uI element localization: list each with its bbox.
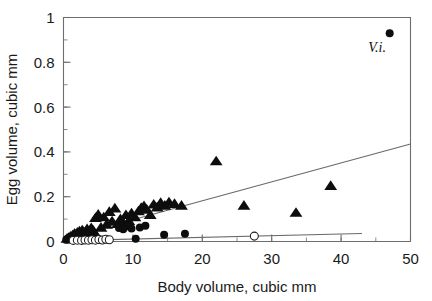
y-tick-label: 0.6 — [34, 99, 55, 116]
scatter-plot-figure: 0102030405000.20.40.60.81 Body volume, c… — [0, 0, 432, 301]
data-point-circle — [128, 225, 136, 233]
data-point-circle — [132, 235, 140, 243]
x-tick-label: 0 — [59, 250, 67, 267]
data-point-open-circle — [250, 232, 258, 240]
y-tick-label: 0.8 — [34, 54, 55, 71]
data-point-triangle — [210, 156, 223, 166]
data-point-circle — [181, 230, 189, 238]
x-tick-label: 30 — [263, 250, 280, 267]
data-point-open-circle — [105, 236, 113, 244]
plot-canvas: 0102030405000.20.40.60.81 Body volume, c… — [0, 0, 432, 301]
x-tick-label: 10 — [125, 250, 142, 267]
data-point-triangle — [108, 203, 121, 213]
y-tick-label: 0.4 — [34, 143, 55, 160]
y-tick-label: 0.2 — [34, 188, 55, 205]
y-axis-title: Egg volume, cubic mm — [3, 54, 20, 206]
x-tick-label: 20 — [194, 250, 211, 267]
data-point-triangle — [290, 207, 303, 217]
annotations-group: V.i. — [368, 40, 386, 55]
data-point-triangle — [238, 200, 251, 210]
y-tick-label: 1 — [46, 9, 54, 26]
x-axis-title: Body volume, cubic mm — [157, 278, 316, 295]
data-point-circle — [160, 231, 168, 239]
y-tick-label: 0 — [46, 233, 54, 250]
data-point-circle — [141, 222, 149, 230]
data-point-triangle — [324, 180, 337, 190]
x-tick-label: 40 — [333, 250, 350, 267]
data-point-circle — [386, 29, 394, 37]
x-tick-label: 50 — [402, 250, 419, 267]
data-points-group — [61, 29, 394, 244]
species-annotation: V.i. — [368, 40, 386, 55]
